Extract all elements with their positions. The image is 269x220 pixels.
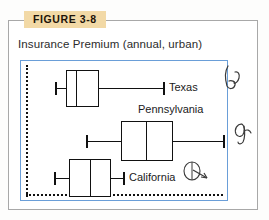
- axis-bottom-dotted: [26, 194, 223, 196]
- california-upper-whisker-cap: [123, 172, 125, 185]
- pennsylvania-upper-whisker-cap: [223, 135, 225, 148]
- boxplot-panel: Texas Pennsylvania California: [20, 60, 228, 201]
- series-label-texas: Texas: [169, 81, 198, 93]
- pennsylvania-lower-whisker-cap: [86, 135, 88, 148]
- series-label-california: California: [129, 171, 175, 183]
- handwritten-circled-arrow-mark: [181, 159, 211, 185]
- axis-left-dotted: [26, 65, 28, 197]
- pennsylvania-box: [121, 121, 173, 161]
- texas-median-line: [76, 70, 77, 107]
- pennsylvania-median-line: [146, 121, 147, 161]
- california-median-line: [90, 159, 91, 197]
- texas-upper-whisker-cap: [163, 82, 165, 95]
- series-label-pennsylvania: Pennsylvania: [138, 103, 203, 115]
- california-lower-whisker-cap: [54, 172, 56, 185]
- chart-title: Insurance Premium (annual, urban): [18, 38, 202, 50]
- texas-box: [66, 70, 99, 107]
- figure-number-tab: FIGURE 3-8: [24, 11, 106, 28]
- texas-lower-whisker-cap: [55, 82, 57, 95]
